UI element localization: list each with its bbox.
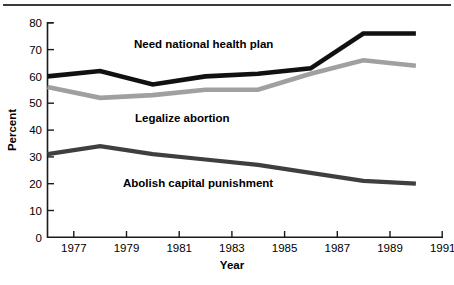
x-tick-label-1985: 1985 (272, 242, 298, 254)
series-line-legalize-abortion (48, 60, 416, 98)
y-tick-label-50: 50 (29, 97, 42, 109)
y-tick-label-0: 0 (36, 232, 42, 244)
y-tick-marks (48, 23, 55, 211)
series-label-legalize-abortion: Legalize abortion (135, 112, 230, 124)
y-tick-label-60: 60 (29, 71, 42, 83)
y-tick-label-40: 40 (29, 124, 42, 136)
x-tick-label-1987: 1987 (325, 242, 351, 254)
x-tick-label-1977: 1977 (61, 242, 87, 254)
x-tick-label-1979: 1979 (114, 242, 140, 254)
chart-figure: 80 70 60 50 40 30 20 10 0 1977 1979 1981… (0, 0, 454, 285)
x-tick-label-1981: 1981 (166, 242, 192, 254)
series-label-abolish-capital-punishment: Abolish capital punishment (123, 177, 273, 189)
x-tick-marks (74, 231, 390, 237)
series-label-need-national-health-plan: Need national health plan (134, 38, 273, 50)
y-tick-label-70: 70 (29, 44, 42, 56)
series-lines (48, 34, 416, 184)
x-tick-label-1989: 1989 (377, 242, 403, 254)
axes-lines (48, 22, 444, 238)
y-tick-label-80: 80 (29, 17, 42, 29)
x-tick-label-1991: 1991 (430, 242, 454, 254)
y-tick-label-10: 10 (29, 205, 42, 217)
y-tick-label-20: 20 (29, 178, 42, 190)
line-chart-canvas: 80 70 60 50 40 30 20 10 0 1977 1979 1981… (0, 0, 454, 285)
series-annotations: Need national health plan Legalize abort… (123, 38, 273, 189)
y-tick-labels: 80 70 60 50 40 30 20 10 0 (29, 17, 42, 244)
y-axis-title: Percent (6, 109, 18, 151)
y-tick-label-30: 30 (29, 151, 42, 163)
x-tick-labels: 1977 1979 1981 1983 1985 1987 1989 1991 (61, 242, 454, 254)
x-tick-label-1983: 1983 (219, 242, 245, 254)
x-axis-title: Year (220, 259, 245, 271)
